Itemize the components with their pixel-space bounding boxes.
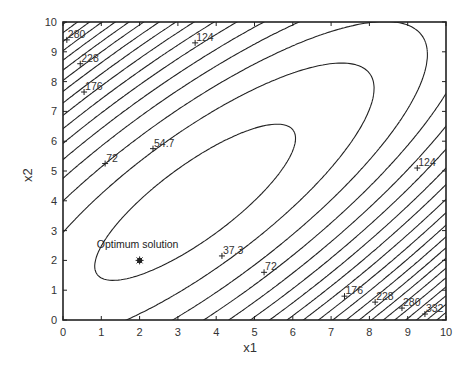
- contour-line: [455, 327, 458, 329]
- contour-label: 37.3: [223, 244, 244, 256]
- contour-line: [52, 13, 458, 329]
- contour-line: [52, 13, 458, 329]
- contour-label: 124: [418, 156, 436, 168]
- contour-line: [52, 13, 458, 329]
- contour-line: [52, 13, 458, 329]
- contour-label: 72: [106, 152, 118, 164]
- contour-label: 228: [81, 52, 99, 64]
- x-tick-label: 0: [60, 326, 66, 338]
- contour-line: [52, 13, 458, 329]
- y-axis-title: x2: [20, 168, 35, 182]
- contour-line: [52, 13, 458, 329]
- x-tick-label: 8: [366, 326, 372, 338]
- x-tick-label: 9: [405, 326, 411, 338]
- contour-line: [52, 13, 458, 329]
- contour-label: 176: [85, 80, 103, 92]
- contour-line: [52, 13, 458, 329]
- contour-chart: 012345678910 012345678910 28022817612454…: [0, 0, 474, 373]
- contour-label: 54.7: [154, 137, 175, 149]
- y-tick-label: 2: [51, 254, 57, 266]
- y-tick-label: 3: [51, 225, 57, 237]
- y-tick-label: 4: [51, 195, 57, 207]
- y-tick-label: 9: [51, 46, 57, 58]
- x-axis-title: x1: [243, 340, 257, 355]
- contour-line: [52, 13, 458, 329]
- x-tick-label: 4: [213, 326, 219, 338]
- contour-label: 176: [346, 284, 364, 296]
- contour-line: [52, 13, 458, 329]
- x-tick-label: 6: [290, 326, 296, 338]
- annotations: Optimum solution: [97, 238, 179, 264]
- y-tick-label: 1: [51, 284, 57, 296]
- y-tick-label: 0: [51, 314, 57, 326]
- contour-line: [52, 63, 375, 329]
- contour-label: 332: [426, 302, 444, 314]
- contour-label: 280: [403, 296, 421, 308]
- contour-line: [52, 22, 428, 329]
- x-tick-label: 3: [175, 326, 181, 338]
- x-tick-label: 1: [98, 326, 104, 338]
- x-tick-label: 10: [440, 326, 452, 338]
- asterisk-icon: [136, 256, 144, 264]
- contour-line: [52, 13, 458, 329]
- contour-line: [52, 13, 458, 329]
- y-tick-label: 5: [51, 165, 57, 177]
- y-tick-label: 6: [51, 135, 57, 147]
- contour-lines: [52, 13, 458, 329]
- contour-line: [52, 13, 458, 329]
- contour-line: [52, 13, 458, 329]
- x-tick-label: 2: [137, 326, 143, 338]
- x-tick-label: 5: [251, 326, 257, 338]
- y-tick-label: 10: [45, 16, 57, 28]
- contour-label: 124: [196, 31, 214, 43]
- contour-label: 228: [376, 290, 394, 302]
- contour-label: 72: [265, 260, 277, 272]
- x-tick-label: 7: [328, 326, 334, 338]
- contour-label: 280: [68, 28, 86, 40]
- contour-line: [52, 13, 458, 329]
- y-tick-label: 8: [51, 76, 57, 88]
- y-tick-label: 7: [51, 105, 57, 117]
- optimum-solution-label: Optimum solution: [97, 238, 179, 250]
- contour-line: [52, 13, 458, 329]
